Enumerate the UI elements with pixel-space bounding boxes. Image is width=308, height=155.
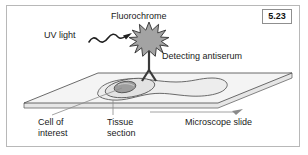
figure-number-text: 5.23 [268, 12, 286, 21]
label-tissue-section: section [107, 128, 136, 138]
label-microscope-slide: Microscope slide [185, 117, 252, 127]
label-uv-light: UV light [44, 30, 76, 40]
uv-wave-path [89, 34, 126, 42]
label-fluorochrome: Fluorochrome [111, 11, 167, 21]
uv-light-wave-arrow [89, 33, 132, 42]
label-detecting-antiserum: Detecting antiserum [162, 51, 242, 61]
figure-container: Fluorochrome UV light Detecting antiseru… [0, 0, 308, 155]
label-cell-of: Cell of [38, 117, 64, 127]
label-cell-interest: interest [38, 128, 68, 138]
leader-arrow-slide [232, 109, 243, 115]
label-tissue: Tissue [107, 117, 133, 127]
figure-number-box: 5.23 [262, 9, 292, 24]
